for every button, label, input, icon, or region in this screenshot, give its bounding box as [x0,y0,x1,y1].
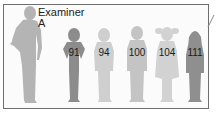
child-label-91: 91 [64,48,84,58]
child-label-111: 111 [183,48,207,58]
slash-mark [207,15,215,27]
examiner-label: Examiner A [38,7,84,29]
child-label-94: 94 [94,48,114,58]
child-label-104: 104 [154,48,180,58]
child-label-100: 100 [124,48,150,58]
child-silhouette-104 [153,25,181,103]
child-silhouette-91 [60,27,88,103]
child-silhouette-111 [184,27,206,103]
child-silhouette-100 [124,25,150,103]
child-silhouette-94 [92,27,116,103]
